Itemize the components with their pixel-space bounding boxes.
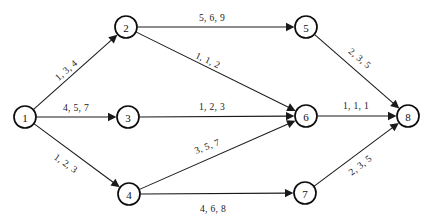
- arrow-head-icon: [389, 123, 398, 131]
- edge-2-to-6: [136, 32, 295, 111]
- edge-4-to-7: [140, 189, 293, 197]
- node-label-text: 6: [303, 111, 309, 123]
- node-label-text: 5: [303, 22, 309, 34]
- edge-2-to-5: [138, 23, 295, 31]
- node-5[interactable]: 5: [295, 16, 317, 38]
- edge-labels-layer: 1, 3, 44, 5, 71, 2, 35, 6, 91, 1, 21, 2,…: [52, 12, 374, 214]
- edge-label-7-to-8: 2, 3, 5: [346, 153, 373, 178]
- arrow-head-icon: [108, 113, 117, 121]
- edge-label-text: 2, 3, 5: [346, 45, 373, 70]
- node-label-text: 1: [22, 112, 28, 124]
- edge-line: [34, 39, 113, 109]
- arrow-head-icon: [285, 189, 294, 197]
- edge-7-to-8: [314, 123, 399, 186]
- edge-5-to-8: [315, 35, 400, 109]
- edge-label-text: 4, 5, 7: [63, 102, 89, 113]
- edge-4-to-6: [140, 120, 296, 189]
- edge-label-text: 1, 3, 4: [53, 57, 80, 82]
- node-label-text: 7: [302, 188, 308, 200]
- node-7[interactable]: 7: [294, 182, 316, 204]
- edge-line: [140, 123, 290, 189]
- node-label-text: 8: [405, 111, 411, 123]
- node-4[interactable]: 4: [118, 183, 140, 205]
- node-label-text: 2: [123, 22, 129, 34]
- edge-3-to-6: [139, 112, 294, 120]
- edge-label-text: 1, 2, 3: [199, 101, 225, 112]
- node-1[interactable]: 1: [14, 106, 36, 128]
- node-8[interactable]: 8: [397, 105, 419, 127]
- edge-label-1-to-2: 1, 3, 4: [53, 57, 80, 82]
- edge-label-2-to-5: 5, 6, 9: [199, 12, 225, 23]
- edge-label-text: 4, 6, 8: [200, 203, 226, 214]
- edge-line: [140, 193, 286, 194]
- graph-canvas: 12345678 1, 3, 44, 5, 71, 2, 35, 6, 91, …: [0, 0, 434, 224]
- node-6[interactable]: 6: [295, 105, 317, 127]
- arrow-head-icon: [286, 112, 295, 120]
- edge-1-to-2: [34, 35, 118, 110]
- arrow-head-icon: [286, 23, 295, 31]
- edge-line: [139, 116, 287, 117]
- edge-line: [136, 32, 289, 108]
- edge-label-1-to-3: 4, 5, 7: [63, 102, 89, 113]
- edge-1-to-4: [34, 124, 120, 187]
- node-label-text: 4: [126, 189, 132, 201]
- node-2[interactable]: 2: [115, 16, 137, 38]
- edge-6-to-8: [318, 112, 397, 120]
- node-3[interactable]: 3: [117, 106, 139, 128]
- edge-label-6-to-8: 1, 1, 1: [343, 100, 369, 111]
- arrow-head-icon: [388, 112, 397, 120]
- edge-label-text: 1, 1, 1: [343, 100, 369, 111]
- edge-line: [314, 127, 393, 186]
- edge-label-3-to-6: 1, 2, 3: [199, 101, 225, 112]
- edge-label-text: 5, 6, 9: [199, 12, 225, 23]
- arrow-head-icon: [110, 179, 119, 187]
- node-label-text: 3: [125, 112, 131, 124]
- edge-label-text: 3, 5, 7: [193, 136, 221, 156]
- edge-label-4-to-7: 4, 6, 8: [200, 203, 226, 214]
- network-diagram: 12345678 1, 3, 44, 5, 71, 2, 35, 6, 91, …: [0, 0, 434, 224]
- edge-1-to-3: [37, 113, 117, 121]
- edge-label-5-to-8: 2, 3, 5: [346, 45, 373, 70]
- edge-label-4-to-6: 3, 5, 7: [193, 136, 221, 156]
- edge-label-text: 2, 3, 5: [346, 153, 373, 178]
- edge-line: [34, 124, 114, 183]
